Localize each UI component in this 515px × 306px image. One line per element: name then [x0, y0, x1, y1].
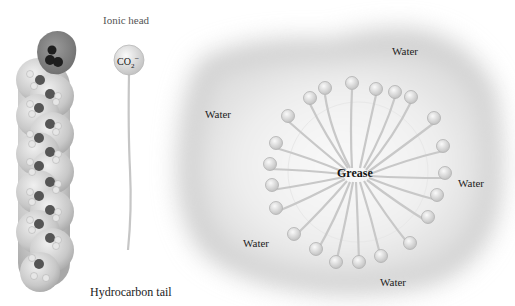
co2-subscript: 2: [131, 62, 135, 70]
co2-formula: CO2−: [117, 54, 139, 70]
hydrocarbon-chain-atoms: [16, 58, 74, 292]
grease-label: Grease: [337, 166, 373, 181]
co2-charge: −: [134, 54, 139, 63]
carboxylate-head-atoms: [37, 31, 76, 74]
water-label-right: Water: [458, 177, 484, 189]
ionic-head-label: Ionic head: [103, 14, 149, 26]
water-region: [178, 29, 502, 294]
co2-text: CO: [117, 56, 131, 67]
water-label-bottom: Water: [380, 276, 406, 288]
space-filling-soap-molecule: [0, 0, 100, 306]
schematic-soap-molecule: [100, 40, 150, 280]
hydrocarbon-tail-label: Hydrocarbon tail: [90, 285, 172, 300]
hydrocarbon-tail-line: [128, 74, 131, 250]
water-label-top: Water: [392, 45, 418, 57]
water-label-left: Water: [205, 108, 231, 120]
water-label-bottom-left: Water: [243, 237, 269, 249]
